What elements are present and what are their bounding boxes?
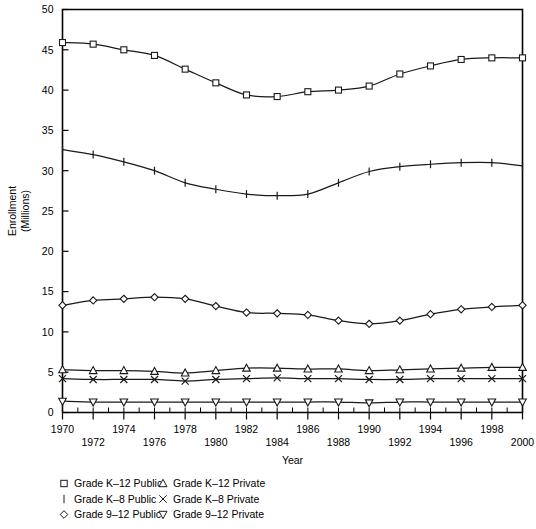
series-marker-0 <box>121 47 127 53</box>
plot-frame <box>63 10 523 413</box>
chart-canvas: 05101520253035404550Enrollment(Millions)… <box>0 0 536 529</box>
series-marker-2 <box>396 317 403 324</box>
series-marker-0 <box>90 41 96 47</box>
series-line-0 <box>63 43 523 97</box>
series-marker-0 <box>489 55 495 61</box>
y-tick-label: 50 <box>42 3 54 15</box>
series-marker-2 <box>366 320 373 327</box>
series-marker-2 <box>488 303 495 310</box>
legend-label-5: Grade 9–12 Private <box>173 508 264 520</box>
x-axis-title: Year <box>282 454 304 466</box>
series-marker-2 <box>182 295 189 302</box>
series-marker-0 <box>213 80 219 86</box>
series-marker-0 <box>244 92 250 98</box>
series-marker-0 <box>336 87 342 93</box>
series-marker-0 <box>520 55 526 61</box>
x-tick-label-lower: 1992 <box>388 436 412 448</box>
series-marker-0 <box>152 52 158 58</box>
legend-marker-2 <box>60 511 68 519</box>
y-axis-title-line1: Enrollment <box>6 186 18 236</box>
x-tick-label-upper: 1990 <box>357 423 381 435</box>
series-marker-2 <box>151 294 158 301</box>
series-marker-2 <box>274 310 281 317</box>
series-line-3 <box>63 367 523 373</box>
y-tick-label: 25 <box>42 205 54 217</box>
y-tick-label: 10 <box>42 326 54 338</box>
series-marker-0 <box>458 56 464 62</box>
series-marker-0 <box>428 63 434 69</box>
series-marker-0 <box>305 89 311 95</box>
y-tick-label: 30 <box>42 165 54 177</box>
y-tick-label: 20 <box>42 245 54 257</box>
series-line-4 <box>63 378 523 381</box>
x-tick-label-lower: 2000 <box>511 436 535 448</box>
y-tick-label: 40 <box>42 84 54 96</box>
series-marker-2 <box>427 311 434 318</box>
series-marker-2 <box>335 317 342 324</box>
series-marker-2 <box>120 295 127 302</box>
series-marker-2 <box>212 303 219 310</box>
x-tick-label-lower: 1988 <box>327 436 351 448</box>
series-marker-0 <box>397 71 403 77</box>
y-tick-label: 0 <box>48 406 54 418</box>
x-tick-label-upper: 1974 <box>112 423 136 435</box>
x-tick-label-upper: 1994 <box>419 423 443 435</box>
x-tick-label-upper: 1998 <box>480 423 504 435</box>
x-tick-label-lower: 1984 <box>265 436 289 448</box>
legend-label-4: Grade K–8 Private <box>173 493 260 505</box>
x-tick-label-upper: 1970 <box>51 423 75 435</box>
legend-label-2: Grade 9–12 Public <box>74 508 161 520</box>
series-marker-0 <box>274 94 280 100</box>
series-marker-2 <box>243 309 250 316</box>
x-tick-label-lower: 1996 <box>449 436 473 448</box>
x-tick-label-upper: 1982 <box>235 423 259 435</box>
legend-label-0: Grade K–12 Public <box>74 477 162 489</box>
series-line-1 <box>63 150 523 196</box>
series-marker-2 <box>458 306 465 313</box>
series-marker-0 <box>182 66 188 72</box>
series-marker-2 <box>304 311 311 318</box>
x-tick-label-lower: 1976 <box>143 436 167 448</box>
enrollment-line-chart: 05101520253035404550Enrollment(Millions)… <box>0 0 536 529</box>
series-line-2 <box>63 297 523 324</box>
series-marker-0 <box>60 40 66 46</box>
legend-label-1: Grade K–8 Public <box>74 493 156 505</box>
legend-marker-0 <box>61 480 67 486</box>
y-axis-title-line2: (Millions) <box>19 190 31 232</box>
y-tick-label: 5 <box>48 366 54 378</box>
series-marker-2 <box>90 297 97 304</box>
y-tick-label: 35 <box>42 124 54 136</box>
x-tick-label-lower: 1972 <box>81 436 105 448</box>
series-marker-2 <box>59 302 66 309</box>
x-tick-label-upper: 1986 <box>296 423 320 435</box>
series-line-5 <box>63 401 523 403</box>
series-marker-0 <box>366 83 372 89</box>
legend-label-3: Grade K–12 Private <box>173 477 265 489</box>
y-tick-label: 15 <box>42 285 54 297</box>
x-tick-label-lower: 1980 <box>204 436 228 448</box>
y-tick-label: 45 <box>42 44 54 56</box>
x-tick-label-upper: 1978 <box>173 423 197 435</box>
series-marker-2 <box>519 302 526 309</box>
